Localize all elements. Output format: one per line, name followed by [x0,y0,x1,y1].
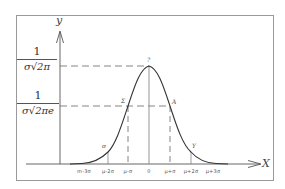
normal-distribution-figure: y X 1 σ√2π 1 σ√2πe m-3σ μ-2σ μ-σ 0 μ+σ μ… [0,0,285,189]
inflection-denominator: σ√2πe [17,105,59,117]
left-tail-label: σ [102,142,106,149]
tick-mu-minus-3sigma: m-3σ [77,168,91,174]
left-inflection-label: Σ [121,97,125,104]
x-axis-label: X [262,157,270,170]
fraction-bar [17,59,57,60]
tick-mu-plus-2sigma: μ+2σ [184,168,199,174]
tick-mu-minus-2sigma: μ-2σ [102,168,114,174]
fraction-bar [17,103,59,104]
tick-mu-plus-sigma: μ+σ [164,168,175,174]
y-axis-label: y [56,14,62,27]
peak-denominator: σ√2π [17,61,57,73]
inflection-numerator: 1 [17,90,59,102]
tick-mu-minus-sigma: μ-σ [124,168,133,174]
inflection-height-label: 1 σ√2πe [17,90,59,117]
peak-numerator: 1 [17,46,57,58]
tick-mu-plus-3sigma: μ+3σ [206,168,221,174]
right-tail-label: Υ [192,142,196,149]
right-inflection-label: Ά [172,98,176,105]
tick-zero: 0 [147,168,150,174]
peak-point-label: ? [147,56,150,63]
peak-height-label: 1 σ√2π [17,46,57,73]
